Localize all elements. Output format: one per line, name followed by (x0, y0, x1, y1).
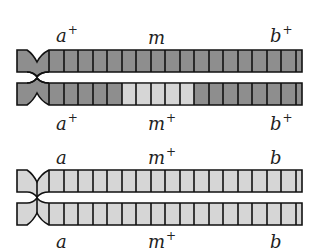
top-chromatid-pair (17, 50, 302, 105)
bottom-chromatid-pair (17, 170, 302, 225)
chromosome-diagram (0, 0, 318, 249)
mutant-region-light-band (122, 84, 194, 104)
bottom-upper-chromatid (17, 170, 302, 197)
top-upper-chromatid (17, 50, 302, 76)
bottom-lower-chromatid (17, 198, 302, 225)
